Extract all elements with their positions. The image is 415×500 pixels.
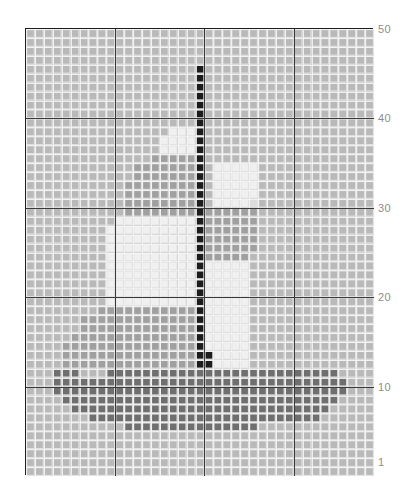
y-axis-tick-1: 1 xyxy=(378,457,384,468)
y-axis-tick-30: 30 xyxy=(378,203,391,214)
pattern-grid-container xyxy=(25,28,373,475)
y-axis-tick-50: 50 xyxy=(378,24,391,35)
y-axis-tick-labels: 50403020101 xyxy=(378,0,415,500)
pattern-grid-canvas xyxy=(26,29,374,476)
cross-stitch-pattern-chart: 50403020101 xyxy=(0,0,415,500)
y-axis-tick-20: 20 xyxy=(378,292,391,303)
y-axis-tick-40: 40 xyxy=(378,113,391,124)
y-axis-tick-10: 10 xyxy=(378,382,391,393)
